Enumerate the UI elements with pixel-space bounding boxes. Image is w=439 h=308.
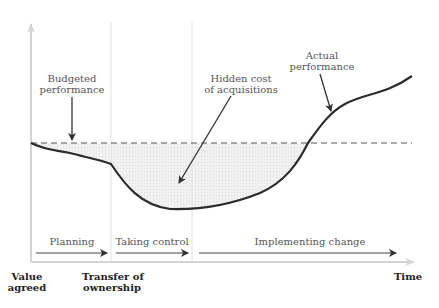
budgeted-label: Budgeted performance (32, 73, 112, 95)
hidden-cost-label-line1: Hidden cost (196, 73, 286, 84)
x-axis-label-time: Time (388, 271, 428, 282)
phase-planning: Planning (36, 236, 108, 247)
diagram-canvas (0, 0, 439, 308)
milestone-value-agreed-line1: Value (2, 271, 52, 282)
budgeted-label-line2: performance (32, 84, 112, 95)
milestone-transfer-line1: Transfer of (82, 271, 142, 282)
actual-label-line2: performance (282, 61, 362, 72)
hidden-cost-label-line2: of acquisitions (196, 84, 286, 95)
milestone-value-agreed-line2: agreed (2, 282, 52, 293)
phase-implementing-change: Implementing change (240, 236, 380, 247)
milestone-transfer-of-ownership: Transfer of ownership (82, 271, 142, 293)
actual-label-line1: Actual (282, 50, 362, 61)
hidden-cost-label: Hidden cost of acquisitions (196, 73, 286, 95)
actual-label: Actual performance (282, 50, 362, 72)
milestone-transfer-line2: ownership (82, 282, 142, 293)
milestone-value-agreed: Value agreed (2, 271, 52, 293)
phase-taking-control: Taking control (114, 236, 190, 247)
actual-arrow (320, 74, 331, 111)
budgeted-label-line1: Budgeted (32, 73, 112, 84)
